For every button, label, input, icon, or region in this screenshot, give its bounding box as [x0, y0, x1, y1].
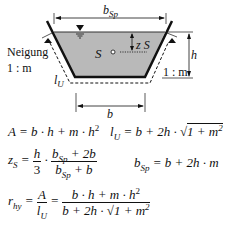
wetted-perimeter-label: lU — [54, 74, 64, 86]
height-label: h — [191, 49, 197, 61]
formula-perimeter: lU = b + 2h · √1 + m2 — [110, 125, 223, 138]
formula-centroid-depth: zS = h3 · bSp + 2bbSp + b — [8, 147, 97, 176]
slope-marker-right-icon — [168, 38, 176, 43]
formula-hydraulic-radius: rhy = AlU = b · h + m · h2b + 2h · √1 + … — [8, 188, 150, 217]
bottom-width-label: b — [107, 108, 113, 120]
slope-ratio-left: 1 : m — [7, 62, 32, 74]
top-width-label: bSp — [103, 4, 118, 16]
centroid-label: S — [95, 47, 102, 60]
centroid-marker — [111, 50, 115, 54]
centroid-depth-label: z S — [136, 39, 150, 51]
formula-top-width: bSp = b + 2h · m — [134, 156, 219, 169]
formula-area: A = b · h + m · h2 — [8, 125, 99, 138]
slope-label: Neigung — [7, 46, 48, 58]
slope-ratio-right: 1 : m — [163, 66, 188, 78]
slope-marker-left-icon — [44, 38, 52, 43]
water-level-icon — [76, 25, 84, 31]
